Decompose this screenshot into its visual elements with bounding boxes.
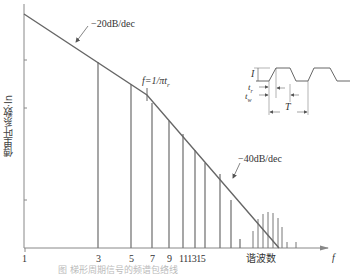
inset-period-label: T (285, 102, 291, 112)
inset-width-label: tw (245, 91, 252, 105)
x-tick-label: 1 (22, 254, 27, 264)
x-axis-label: 谐波数 (246, 254, 276, 264)
figure-caption: 图 梯形周期信号的频谱包络线 (58, 263, 178, 275)
y-axis-label: 傅里叶系数·ln (3, 95, 15, 157)
x-axis-symbol: f (332, 253, 335, 263)
slope1-annotation: −20dB/dec (91, 19, 135, 29)
breakpoint-annotation: f=1/πtr (142, 76, 170, 90)
trapezoid-pulse-inset (254, 68, 350, 115)
x-tick-label: 111315 (179, 254, 205, 264)
slope2-leader (233, 163, 240, 178)
slope1-leader (76, 26, 88, 42)
slope2-annotation: −40dB/dec (238, 154, 282, 164)
inset-amplitude-label: I (251, 69, 254, 79)
x-axis-arrow-icon (320, 246, 329, 251)
axes (24, 4, 329, 252)
spectrum-diagram (0, 0, 352, 275)
